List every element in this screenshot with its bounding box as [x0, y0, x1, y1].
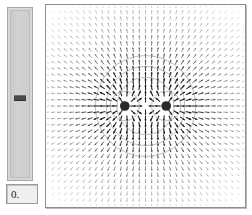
slider-value-text: 0.: [11, 187, 19, 202]
slider-value-input[interactable]: 0.: [6, 184, 38, 204]
parameter-slider-panel: 0.: [2, 2, 42, 213]
plot-frame: [47, 6, 244, 206]
parameter-slider[interactable]: [6, 6, 34, 182]
charge-left: [120, 101, 130, 111]
charge-right: [161, 101, 171, 111]
vector-field-plot[interactable]: [47, 6, 244, 206]
application-window: 0.: [0, 0, 252, 215]
slider-track[interactable]: [10, 10, 30, 178]
vector-plot-panel: [45, 4, 246, 208]
slider-thumb[interactable]: [14, 95, 26, 101]
